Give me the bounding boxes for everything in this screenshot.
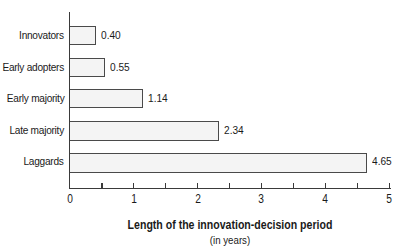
x-tick-label: 5 <box>381 192 398 206</box>
bar-late-majority <box>70 121 219 141</box>
category-label-laggards: Laggards <box>24 155 64 167</box>
bar-laggards <box>70 153 367 173</box>
x-axis-title: Length of the innovation-decision period <box>89 218 371 232</box>
value-label-early-majority: 1.14 <box>148 92 168 104</box>
x-tick-label: 0 <box>62 192 79 206</box>
bar-chart: Innovators 0.40 Early adopters 0.55 Earl… <box>0 0 414 250</box>
x-tick <box>165 183 166 188</box>
bar-early-majority <box>70 89 143 108</box>
x-tick <box>293 183 294 188</box>
x-tick <box>261 183 262 188</box>
category-label-early-adopters: Early adopters <box>2 61 64 73</box>
x-axis-subtitle: (in years) <box>89 234 371 246</box>
x-tick <box>197 183 198 188</box>
category-label-early-majority: Early majority <box>6 92 64 104</box>
x-tick <box>133 183 134 188</box>
x-tick-label: 2 <box>189 192 206 206</box>
value-label-innovators: 0.40 <box>101 29 121 41</box>
x-axis <box>69 188 391 189</box>
x-tick <box>229 183 230 188</box>
x-tick-label: 1 <box>125 192 142 206</box>
bar-early-adopters <box>70 58 105 77</box>
category-label-late-majority: Late majority <box>9 124 64 136</box>
x-tick <box>101 183 102 188</box>
x-tick-label: 3 <box>253 192 270 206</box>
x-tick-label: 4 <box>317 192 334 206</box>
value-label-early-adopters: 0.55 <box>110 61 130 73</box>
bar-innovators <box>70 26 96 45</box>
value-label-laggards: 4.65 <box>372 155 392 167</box>
value-label-late-majority: 2.34 <box>224 124 244 136</box>
category-label-innovators: Innovators <box>19 29 64 41</box>
x-tick <box>389 183 390 188</box>
x-tick <box>325 183 326 188</box>
x-tick <box>357 183 358 188</box>
